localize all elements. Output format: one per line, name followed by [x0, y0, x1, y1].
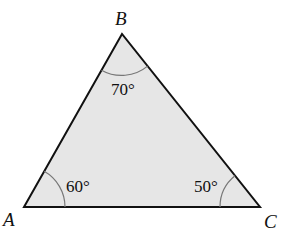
- angle-label-b: 70°: [111, 80, 135, 99]
- angle-label-a: 60°: [66, 177, 90, 196]
- vertex-label-b: B: [115, 8, 127, 29]
- vertex-label-a: A: [1, 209, 15, 230]
- vertex-label-c: C: [264, 211, 277, 232]
- triangle-diagram: B A C 70° 60° 50°: [0, 0, 284, 233]
- triangle-abc: [24, 34, 260, 207]
- angle-label-c: 50°: [194, 177, 218, 196]
